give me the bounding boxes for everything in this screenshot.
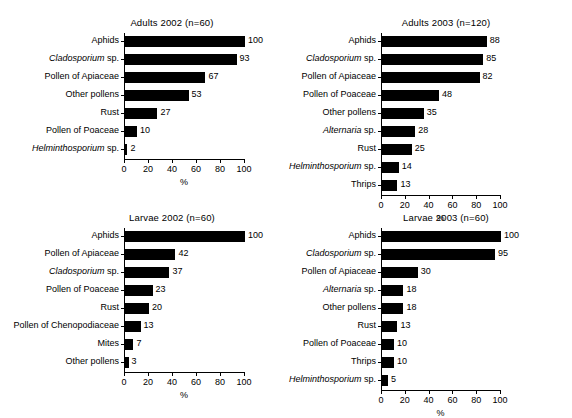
bar-row: Cladosporium sp.37 bbox=[124, 264, 244, 282]
category-label: Other pollens bbox=[322, 302, 376, 313]
bar bbox=[125, 339, 133, 350]
bar bbox=[125, 126, 137, 137]
bar-row: Pollen of Apiaceae30 bbox=[381, 264, 500, 282]
x-axis-tick bbox=[172, 373, 173, 376]
y-axis-tick bbox=[121, 77, 124, 78]
x-axis-title: % bbox=[180, 390, 188, 400]
bar bbox=[382, 36, 487, 47]
panel-title: Adults 2002 (n=60) bbox=[0, 17, 286, 28]
y-axis-tick bbox=[121, 113, 124, 114]
bar bbox=[125, 321, 141, 332]
bar bbox=[125, 249, 175, 260]
x-axis-tick-label: 60 bbox=[191, 377, 201, 387]
x-axis-tick bbox=[124, 160, 125, 163]
y-axis-tick bbox=[121, 254, 124, 255]
y-axis-tick bbox=[378, 272, 381, 273]
bar-value-label: 13 bbox=[144, 320, 154, 331]
bar-row: Aphids100 bbox=[124, 228, 244, 246]
x-axis-tick bbox=[220, 373, 221, 376]
bar-value-label: 14 bbox=[402, 161, 412, 172]
x-axis-tick bbox=[500, 391, 501, 394]
bar-value-label: 13 bbox=[400, 320, 410, 331]
bar bbox=[382, 321, 397, 332]
bar-value-label: 18 bbox=[406, 284, 416, 295]
bar-row: Rust20 bbox=[124, 300, 244, 318]
bar-value-label: 93 bbox=[240, 53, 250, 64]
plot-area: Aphids88Cladosporium sp.85Pollen of Apia… bbox=[381, 33, 500, 195]
panel-larvae-2002: Larvae 2002 (n=60) Aphids100Pollen of Ap… bbox=[0, 195, 286, 389]
bar-value-label: 20 bbox=[152, 302, 162, 313]
bar-row: Pollen of Apiaceae82 bbox=[381, 69, 500, 87]
category-label: Aphids bbox=[348, 230, 376, 241]
bar-value-label: 28 bbox=[418, 125, 428, 136]
bar-row: Alternaria sp.18 bbox=[381, 282, 500, 300]
bar-value-label: 10 bbox=[397, 338, 407, 349]
bar bbox=[125, 231, 245, 242]
x-axis-tick-label: 100 bbox=[492, 395, 507, 405]
x-axis-tick bbox=[244, 160, 245, 163]
bar-value-label: 18 bbox=[406, 302, 416, 313]
bar-row: Other pollens18 bbox=[381, 300, 500, 318]
bar-row: Cladosporium sp.95 bbox=[381, 246, 500, 264]
x-axis-tick-label: 40 bbox=[167, 164, 177, 174]
category-label: Cladosporium sp. bbox=[49, 53, 119, 64]
bar bbox=[125, 267, 169, 278]
bar bbox=[125, 36, 245, 47]
bar-value-label: 100 bbox=[248, 35, 263, 46]
bar bbox=[382, 108, 424, 119]
x-axis-tick bbox=[244, 373, 245, 376]
bar bbox=[382, 180, 397, 191]
bar-row: Mites7 bbox=[124, 336, 244, 354]
y-axis-tick bbox=[378, 59, 381, 60]
x-axis-tick-label: 60 bbox=[191, 164, 201, 174]
y-axis-tick bbox=[121, 326, 124, 327]
bar-row: Aphids100 bbox=[381, 228, 500, 246]
panel-title: Larvae 2003 (n=60) bbox=[286, 212, 572, 223]
y-axis-tick bbox=[121, 344, 124, 345]
bar-value-label: 48 bbox=[442, 89, 452, 100]
y-axis-tick bbox=[378, 41, 381, 42]
x-axis-tick-label: 20 bbox=[400, 395, 410, 405]
bar bbox=[125, 357, 129, 368]
x-axis-tick bbox=[196, 373, 197, 376]
panel-adults-2003: Adults 2003 (n=120) Aphids88Cladosporium… bbox=[286, 0, 572, 194]
bar bbox=[382, 339, 394, 350]
x-axis-tick bbox=[124, 373, 125, 376]
category-label: Pollen of Poaceae bbox=[46, 125, 119, 136]
y-axis-tick bbox=[378, 236, 381, 237]
bar-row: Thrips10 bbox=[381, 354, 500, 372]
x-axis-tick bbox=[220, 160, 221, 163]
x-axis-tick-label: 80 bbox=[215, 377, 225, 387]
panel-title: Adults 2003 (n=120) bbox=[286, 17, 572, 28]
y-axis-tick bbox=[378, 326, 381, 327]
category-label: Alternaria sp. bbox=[323, 125, 376, 136]
x-axis-tick bbox=[429, 391, 430, 394]
bar bbox=[382, 357, 394, 368]
category-label: Pollen of Apiaceae bbox=[301, 266, 376, 277]
bar-value-label: 35 bbox=[427, 107, 437, 118]
bar-value-label: 42 bbox=[178, 248, 188, 259]
x-axis-tick bbox=[172, 160, 173, 163]
bar-row: Pollen of Poaceae48 bbox=[381, 87, 500, 105]
bar-value-label: 10 bbox=[140, 125, 150, 136]
bar-row: Pollen of Chenopodiaceae13 bbox=[124, 318, 244, 336]
bar-value-label: 23 bbox=[156, 284, 166, 295]
bar-row: Cladosporium sp.93 bbox=[124, 51, 244, 69]
x-axis-tick-label: 80 bbox=[215, 164, 225, 174]
bar-row: Rust13 bbox=[381, 318, 500, 336]
bar-value-label: 37 bbox=[172, 266, 182, 277]
category-label: Pollen of Poaceae bbox=[303, 338, 376, 349]
x-axis-tick-label: 80 bbox=[471, 395, 481, 405]
bar-value-label: 30 bbox=[421, 266, 431, 277]
category-label: Helminthosporium sp. bbox=[32, 143, 119, 154]
category-label: Other pollens bbox=[322, 107, 376, 118]
bar-value-label: 82 bbox=[483, 71, 493, 82]
bar-value-label: 53 bbox=[192, 89, 202, 100]
bar bbox=[125, 285, 153, 296]
bar-row: Aphids88 bbox=[381, 33, 500, 51]
bar-row: Rust27 bbox=[124, 105, 244, 123]
category-label: Pollen of Poaceae bbox=[303, 89, 376, 100]
y-axis-tick bbox=[121, 149, 124, 150]
bar bbox=[382, 144, 412, 155]
